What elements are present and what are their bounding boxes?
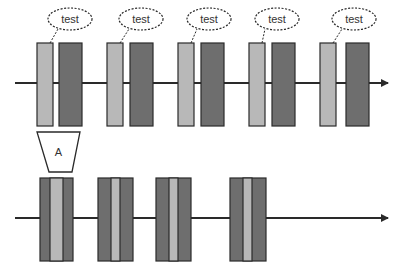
- bottom-group: [230, 178, 266, 261]
- top-unit: test: [178, 8, 231, 126]
- transform-box: A: [37, 132, 80, 172]
- callout-connector: [333, 29, 342, 43]
- callout-label: test: [268, 13, 286, 25]
- callout-connector: [120, 29, 129, 43]
- dark-bar: [346, 43, 369, 126]
- top-unit: test: [249, 8, 299, 126]
- callout-label: test: [200, 13, 218, 25]
- light-bar: [178, 43, 194, 126]
- dark-bar: [201, 43, 224, 126]
- top-timeline: testtesttesttesttest: [15, 8, 388, 126]
- bottom-group: [40, 178, 73, 261]
- bottom-group: [98, 178, 133, 261]
- dark-bar: [130, 43, 153, 126]
- callout-connector: [262, 29, 265, 43]
- light-stripe: [243, 178, 252, 261]
- timeline-diagram: testtesttesttesttest A: [0, 0, 397, 271]
- top-unit: test: [320, 8, 376, 126]
- light-bar: [37, 43, 53, 126]
- top-units: testtesttesttesttest: [37, 8, 376, 126]
- light-bar: [107, 43, 123, 126]
- bottom-timeline: [15, 178, 388, 261]
- callout-label: test: [345, 13, 363, 25]
- callout-connector: [191, 29, 197, 43]
- light-stripe: [50, 178, 63, 261]
- top-unit: test: [37, 8, 92, 126]
- callout-connector: [50, 29, 58, 43]
- light-bar: [320, 43, 336, 126]
- light-stripe: [111, 178, 120, 261]
- light-bar: [249, 43, 265, 126]
- dark-bar: [272, 43, 295, 126]
- callout-label: test: [61, 13, 79, 25]
- top-unit: test: [107, 8, 163, 126]
- light-stripe: [169, 178, 178, 261]
- bottom-groups: [40, 178, 266, 261]
- transform-label: A: [55, 146, 63, 158]
- bottom-group: [156, 178, 191, 261]
- dark-bar: [59, 43, 82, 126]
- callout-label: test: [132, 13, 150, 25]
